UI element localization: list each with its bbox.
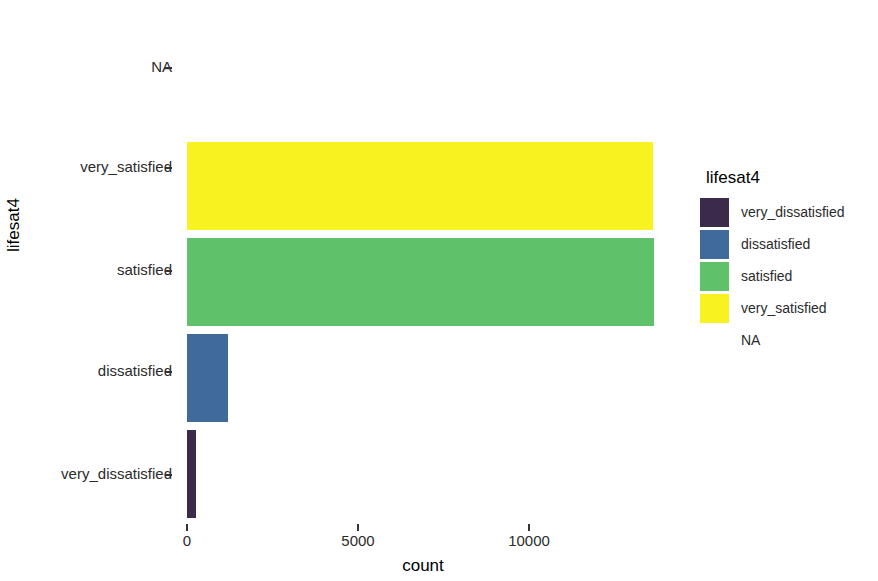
bar-very-dissatisfied — [187, 430, 196, 518]
legend-item-very-dissatisfied: very_dissatisfied — [700, 196, 845, 228]
y-tick-label: NA — [12, 58, 172, 75]
legend-item-dissatisfied: dissatisfied — [700, 228, 845, 260]
legend-swatch-icon — [700, 230, 729, 259]
x-tick-mark-5000 — [357, 524, 359, 531]
bar-dissatisfied — [187, 334, 228, 422]
x-tick-mark-10000 — [528, 524, 530, 531]
legend-item-satisfied: satisfied — [700, 260, 845, 292]
x-tick-label-0: 0 — [183, 532, 191, 549]
bar-very-satisfied — [187, 142, 653, 230]
legend-item-label: very_satisfied — [741, 300, 827, 316]
y-tick-mark — [165, 371, 172, 373]
legend-swatch-icon — [700, 294, 729, 323]
legend-item-label: dissatisfied — [741, 236, 810, 252]
y-tick-mark — [165, 474, 172, 476]
y-tick-label: satisfied — [12, 261, 172, 278]
legend-item-label: very_dissatisfied — [741, 204, 845, 220]
bar-satisfied — [187, 238, 654, 326]
legend-item-na: NA — [700, 324, 845, 356]
legend-item-label: NA — [741, 332, 760, 348]
y-tick-label: very_satisfied — [12, 158, 172, 175]
legend-swatch-icon — [700, 198, 729, 227]
x-tick-label-10000: 10000 — [508, 532, 550, 549]
x-tick-mark-0 — [186, 524, 188, 531]
legend-title: lifesat4 — [706, 168, 845, 188]
legend: lifesat4 very_dissatisfied dissatisfied … — [700, 168, 845, 356]
legend-swatch-icon — [700, 326, 729, 355]
plot-panel — [187, 42, 659, 522]
y-tick-mark — [165, 67, 172, 69]
y-tick-mark — [165, 167, 172, 169]
x-axis-title: count — [187, 556, 659, 576]
legend-item-label: satisfied — [741, 268, 792, 284]
legend-item-very-satisfied: very_satisfied — [700, 292, 845, 324]
y-tick-mark — [165, 270, 172, 272]
y-tick-label: dissatisfied — [12, 362, 172, 379]
x-tick-label-5000: 5000 — [341, 532, 374, 549]
legend-swatch-icon — [700, 262, 729, 291]
bar-chart: lifesat4 NA very_satisfied satisfied dis… — [0, 0, 878, 581]
y-tick-label: very_dissatisfied — [12, 465, 172, 482]
